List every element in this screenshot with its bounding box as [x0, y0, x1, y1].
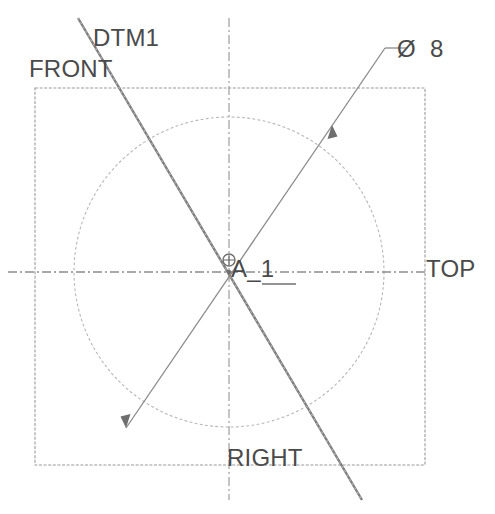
diameter-value: 8	[430, 35, 444, 63]
view-label-front: FRONT	[29, 55, 113, 83]
datum-plane-label-dtm1: DTM1	[93, 24, 159, 52]
view-label-right: RIGHT	[227, 444, 303, 472]
leader-arrowhead-upper	[328, 125, 338, 139]
diameter-leader-line	[126, 48, 385, 428]
view-label-top: TOP	[426, 255, 476, 283]
cad-drawing-canvas: DTM1 FRONT Ø 8 TOP RIGHT A_1	[0, 0, 495, 514]
diameter-symbol-icon: Ø	[397, 35, 416, 63]
leader-arrowhead-lower	[121, 414, 131, 428]
datum-axis-label: A_1	[231, 255, 274, 283]
